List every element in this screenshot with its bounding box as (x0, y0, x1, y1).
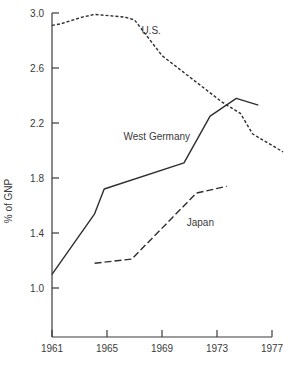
line-chart: 3.02.62.21.81.41.019611965196919731977 U… (0, 0, 294, 366)
y-tick-label: 1.8 (30, 173, 44, 184)
y-tick-label: 3.0 (30, 8, 44, 19)
axes: 3.02.62.21.81.41.019611965196919731977 (30, 8, 283, 355)
y-tick-label: 1.0 (30, 283, 44, 294)
series-group (52, 14, 283, 274)
x-tick-label: 1969 (151, 343, 174, 354)
x-tick-label: 1961 (41, 343, 64, 354)
y-tick-label: 2.2 (30, 118, 44, 129)
series-label-japan: Japan (187, 217, 214, 228)
series-line-west-germany (52, 98, 258, 274)
series-label-west-germany: West Germany (124, 131, 191, 142)
y-axis-label: % of GNP (3, 178, 14, 223)
x-tick-label: 1973 (206, 343, 229, 354)
series-labels: U.S.West GermanyJapan (124, 25, 215, 229)
y-tick-label: 1.4 (30, 228, 44, 239)
x-tick-label: 1965 (96, 343, 119, 354)
x-tick-label: 1977 (261, 343, 284, 354)
series-label-u-s: U.S. (141, 25, 160, 36)
y-tick-label: 2.6 (30, 63, 44, 74)
